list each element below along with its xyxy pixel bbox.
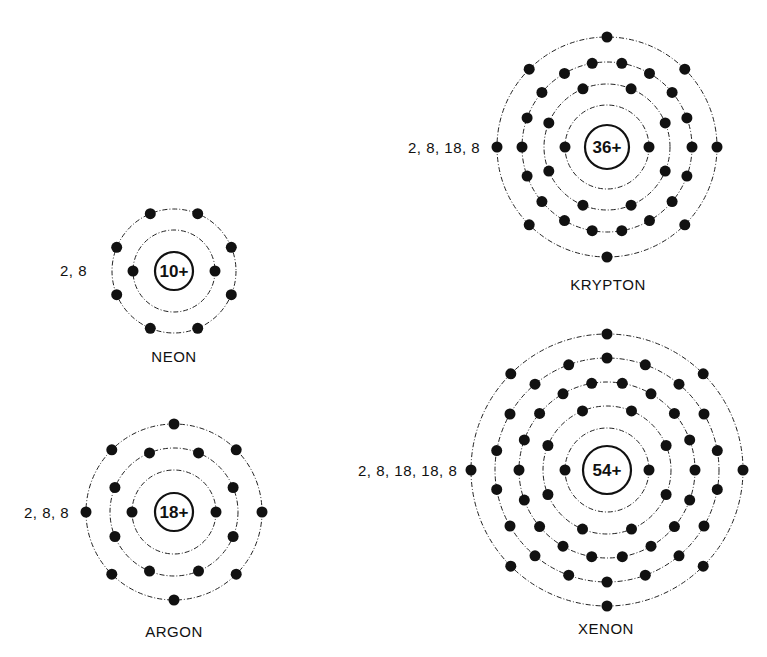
electron-dot xyxy=(560,465,571,476)
electron-dot xyxy=(644,142,655,153)
argon-configuration-label: 2, 8, 8 xyxy=(24,504,69,521)
electron-dot xyxy=(530,550,541,561)
electron-dot xyxy=(144,447,155,458)
electron-dot xyxy=(226,242,237,253)
electron-dot xyxy=(626,83,637,94)
electron-dot xyxy=(669,408,680,419)
electron-dot xyxy=(587,225,598,236)
electron-dot xyxy=(543,117,554,128)
electron-dot xyxy=(558,388,569,399)
electron-dot xyxy=(109,531,120,542)
electron-dot xyxy=(210,266,221,277)
electron-dot xyxy=(519,495,530,506)
electron-dot xyxy=(602,601,613,612)
electron-dot xyxy=(519,434,530,445)
electron-dot xyxy=(466,465,477,476)
electron-dot xyxy=(211,507,222,518)
electron-dot xyxy=(577,524,588,535)
electron-dot xyxy=(505,368,516,379)
electron-dot xyxy=(617,551,628,562)
electron-dot xyxy=(587,58,598,69)
electron-dot xyxy=(169,595,180,606)
electron-dot xyxy=(231,569,242,580)
krypton-name-label: KRYPTON xyxy=(570,276,645,293)
electron-dot xyxy=(681,112,692,123)
electron-dot xyxy=(505,409,516,420)
xenon-atom: 54+2, 8, 18, 18, 8XENON xyxy=(358,329,749,638)
electron-dot xyxy=(667,196,678,207)
electron-dot xyxy=(661,489,672,500)
electron-dot xyxy=(193,447,204,458)
electron-dot xyxy=(514,465,525,476)
electron-dot xyxy=(577,405,588,416)
electron-dot xyxy=(559,68,570,79)
electron-dot xyxy=(522,112,533,123)
electron-dot xyxy=(563,570,574,581)
electron-dot xyxy=(534,408,545,419)
electron-dot xyxy=(228,482,239,493)
neon-configuration-label: 2, 8 xyxy=(60,262,87,279)
electron-dot xyxy=(617,378,628,389)
electron-dot xyxy=(577,200,588,211)
electron-dot xyxy=(626,524,637,535)
electron-dot xyxy=(492,142,503,153)
electron-dot xyxy=(231,444,242,455)
electron-dot xyxy=(674,550,685,561)
electron-dot xyxy=(684,495,695,506)
electron-dot xyxy=(616,58,627,69)
electron-dot xyxy=(626,200,637,211)
electron-dot xyxy=(644,465,655,476)
electron-dot xyxy=(640,359,651,370)
electron-dot xyxy=(586,551,597,562)
electron-dot xyxy=(738,465,749,476)
electron-dot xyxy=(505,521,516,532)
neon-name-label: NEON xyxy=(151,348,196,365)
electron-dot xyxy=(192,323,203,334)
electron-dot xyxy=(534,521,545,532)
electron-dot xyxy=(616,225,627,236)
electron-dot xyxy=(661,440,672,451)
electron-dot xyxy=(679,219,690,230)
electron-dot xyxy=(669,521,680,532)
electron-dot xyxy=(712,445,723,456)
electron-dot xyxy=(257,507,268,518)
electron-dot xyxy=(228,531,239,542)
electron-dot xyxy=(602,577,613,588)
electron-dot xyxy=(602,353,613,364)
electron-dot xyxy=(640,570,651,581)
electron-dot xyxy=(522,171,533,182)
electron-dot xyxy=(144,566,155,577)
electron-dot xyxy=(602,252,613,263)
electron-dot xyxy=(712,484,723,495)
electron-dot xyxy=(558,541,569,552)
electron-dot xyxy=(660,166,671,177)
electron-dot xyxy=(543,166,554,177)
electron-dot xyxy=(626,405,637,416)
electron-dot xyxy=(712,142,723,153)
argon-name-label: ARGON xyxy=(145,623,203,640)
electron-dot xyxy=(687,142,698,153)
electron-dot xyxy=(192,208,203,219)
electron-dot xyxy=(644,68,655,79)
electron-dot xyxy=(542,489,553,500)
krypton-atom: 36+2, 8, 18, 8KRYPTON xyxy=(408,32,723,294)
electron-dot xyxy=(524,219,535,230)
electron-dot xyxy=(679,64,690,75)
electron-dot xyxy=(111,289,122,300)
atom-diagram: 10+2, 8NEON18+2, 8, 8ARGON36+2, 8, 18, 8… xyxy=(0,0,767,657)
electron-dot xyxy=(699,409,710,420)
krypton-configuration-label: 2, 8, 18, 8 xyxy=(408,139,480,156)
electron-dot xyxy=(563,359,574,370)
xenon-nucleus-charge: 54+ xyxy=(593,461,622,480)
electron-dot xyxy=(698,368,709,379)
electron-dot xyxy=(536,87,547,98)
electron-dot xyxy=(505,561,516,572)
electron-dot xyxy=(681,171,692,182)
xenon-name-label: XENON xyxy=(578,620,634,637)
electron-dot xyxy=(106,444,117,455)
electron-dot xyxy=(517,142,528,153)
electron-dot xyxy=(674,379,685,390)
electron-dot xyxy=(530,379,541,390)
electron-dot xyxy=(667,87,678,98)
electron-dot xyxy=(560,142,571,153)
